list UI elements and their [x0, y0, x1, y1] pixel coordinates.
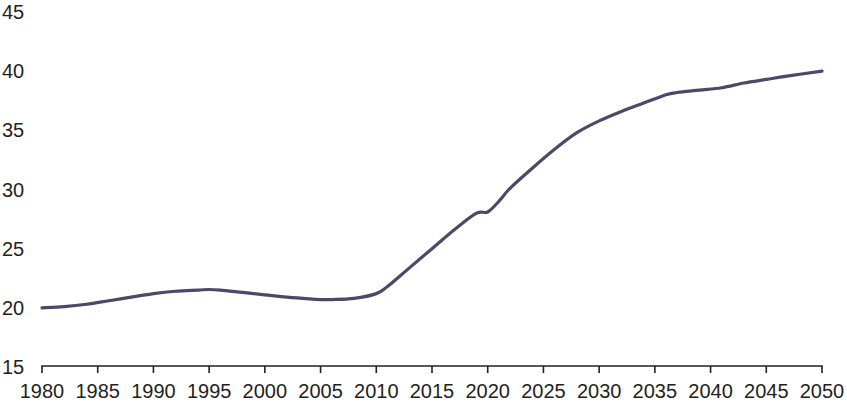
y-tick-label: 30 — [2, 179, 24, 201]
y-tick-label: 25 — [2, 238, 24, 260]
y-tick-label: 20 — [2, 297, 24, 319]
series-line-series-1 — [42, 71, 822, 308]
data-series-group — [42, 71, 822, 308]
x-axis — [42, 366, 822, 373]
x-tick-label: 2000 — [243, 380, 288, 402]
x-tick-label: 2030 — [577, 380, 622, 402]
x-tick-label: 1990 — [131, 380, 176, 402]
chart-canvas: 15202530354045 1980198519901995200020052… — [0, 0, 847, 408]
x-tick-label: 1985 — [75, 380, 120, 402]
y-tick-label: 15 — [2, 356, 24, 378]
x-tick-label: 2035 — [633, 380, 678, 402]
x-tick-label: 2015 — [410, 380, 455, 402]
x-tick-label: 2005 — [298, 380, 343, 402]
y-tick-label: 35 — [2, 119, 24, 141]
x-tick-label: 2025 — [521, 380, 566, 402]
y-axis-tick-labels: 15202530354045 — [2, 1, 24, 378]
x-tick-label: 2010 — [354, 380, 399, 402]
x-tick-label: 2020 — [465, 380, 510, 402]
x-axis-tick-labels: 1980198519901995200020052010201520202025… — [20, 380, 845, 402]
x-tick-label: 2050 — [800, 380, 845, 402]
x-tick-label: 2040 — [688, 380, 733, 402]
x-tick-label: 1995 — [187, 380, 232, 402]
y-tick-label: 45 — [2, 1, 24, 23]
x-tick-label: 1980 — [20, 380, 65, 402]
x-tick-label: 2045 — [744, 380, 789, 402]
y-tick-label: 40 — [2, 60, 24, 82]
line-chart: 15202530354045 1980198519901995200020052… — [0, 0, 847, 408]
